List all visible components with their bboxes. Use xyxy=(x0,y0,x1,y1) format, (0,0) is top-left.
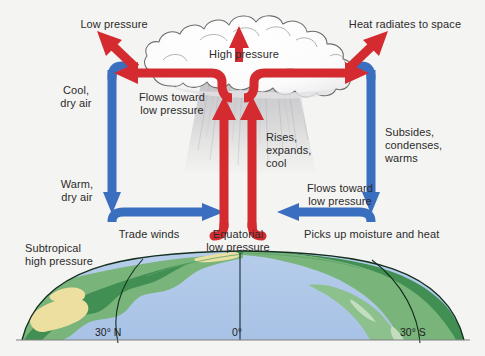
subsidence-left-arrow xyxy=(103,66,132,214)
label-cool-dry-air: Cool, dry air xyxy=(48,84,104,110)
trade-wind-left-arrow xyxy=(112,203,224,222)
label-warm-dry-air: Warm, dry air xyxy=(49,178,105,204)
label-subsides-condenses-warms: Subsides, condenses, warms xyxy=(385,126,469,165)
latitude-tick-0: 0° xyxy=(232,326,242,338)
label-low-pressure: Low pressure xyxy=(62,18,166,31)
latitude-tick-30s: 30° S xyxy=(400,326,426,338)
label-equatorial-low-pressure: Equatorial low pressure xyxy=(197,228,279,254)
label-picks-up-moisture-and-heat: Picks up moisture and heat xyxy=(304,228,474,241)
label-subtropical-high-pressure: Subtropical high pressure xyxy=(25,242,125,268)
label-flows-toward-low-pressure-right: Flows toward low pressure xyxy=(292,182,388,208)
label-heat-radiates-to-space: Heat radiates to space xyxy=(330,18,480,31)
latitude-tick-30n: 30° N xyxy=(95,326,121,338)
radiate-right-arrow xyxy=(349,31,388,68)
label-high-pressure: High pressure xyxy=(196,48,292,61)
circulation-diagram: Low pressure High pressure Heat radiates… xyxy=(0,0,485,356)
label-flows-toward-low-pressure-left: Flows toward low pressure xyxy=(124,91,220,117)
label-trade-winds: Trade winds xyxy=(108,228,190,241)
label-rises-expands-cool: Rises, expands, cool xyxy=(266,131,336,170)
